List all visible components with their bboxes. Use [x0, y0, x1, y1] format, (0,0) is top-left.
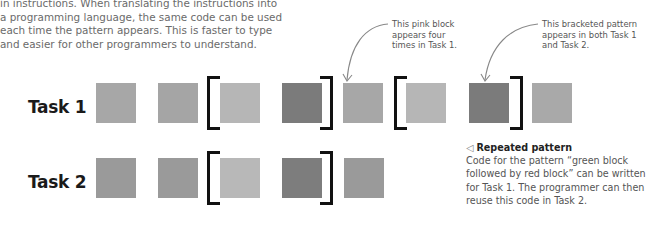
task1-block-8: [532, 83, 572, 123]
bracket-left: [207, 76, 220, 130]
task-1-label: Task 1: [28, 97, 86, 117]
note-line: Code for the pattern “green block: [466, 154, 663, 167]
note-line: for Task 1. The programmer can then: [466, 181, 663, 194]
task2-block-5: [344, 158, 384, 198]
task2-block-2: [158, 158, 198, 198]
task1-block-1: [96, 83, 136, 123]
bracket-right: [510, 76, 523, 130]
task2-block-1: [96, 158, 136, 198]
task1-block-2: [158, 83, 198, 123]
bracket-left: [207, 151, 220, 205]
note-line: followed by red block” can be written: [466, 167, 663, 180]
curved-arrow-icon: [485, 24, 538, 80]
left-triangle-icon: ◁: [466, 142, 473, 153]
curved-arrow-icon: [347, 24, 388, 80]
task1-block-3: [220, 83, 260, 123]
task1-block-6: [406, 83, 446, 123]
note-title: ◁Repeated pattern: [466, 141, 663, 154]
task1-block-4: [282, 83, 322, 123]
note-line: reuse this code in Task 2.: [466, 194, 663, 207]
task2-block-4: [282, 158, 322, 198]
task2-block-3: [220, 158, 260, 198]
bracket-right: [320, 151, 333, 205]
bracket-right: [320, 76, 333, 130]
task1-block-7: [469, 83, 509, 123]
task-2-label: Task 2: [28, 172, 86, 192]
note-title-text: Repeated pattern: [476, 142, 572, 153]
repeated-pattern-note: ◁Repeated pattern Code for the pattern “…: [466, 141, 663, 207]
task1-block-5: [343, 83, 383, 123]
